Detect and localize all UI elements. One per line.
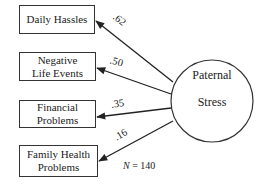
indicator-box-negative-life-events: Negative Life Events	[19, 52, 96, 81]
path-arrow-daily-hassles	[96, 21, 173, 82]
indicator-label-line2: Problems	[37, 114, 79, 127]
sample-size-value: = 140	[130, 160, 156, 171]
indicator-box-daily-hassles: Daily Hassles	[19, 5, 95, 34]
indicator-label-line1: Negative	[38, 54, 78, 67]
indicator-box-family-health-problems: Family Health Problems	[19, 145, 98, 177]
indicator-box-financial-problems: Financial Problems	[19, 100, 96, 128]
indicator-label-line1: Family Health	[27, 148, 90, 161]
latent-label-line1: Paternal	[172, 68, 252, 83]
latent-label-2: Stress	[172, 95, 252, 110]
indicator-label: Daily Hassles	[27, 13, 88, 26]
loading-financial-problems: .35	[110, 97, 125, 110]
sample-size-label: N = 140	[123, 160, 155, 171]
path-arrow-family-health-problems	[99, 121, 173, 161]
latent-label-line2: Stress	[172, 95, 252, 110]
sample-size-symbol: N	[123, 160, 130, 171]
indicator-label-line2: Life Events	[32, 67, 83, 80]
indicator-label-line1: Financial	[37, 101, 78, 114]
latent-label: Paternal	[172, 68, 252, 83]
path-arrow-financial-problems	[97, 108, 171, 117]
indicator-label-line2: Problems	[38, 161, 80, 174]
